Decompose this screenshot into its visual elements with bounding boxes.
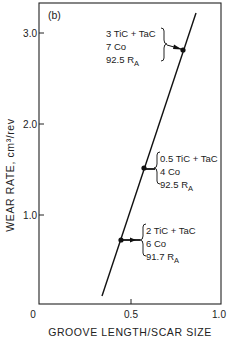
svg-text:92.5 RA: 92.5 RA: [106, 54, 139, 68]
data-point-bottom: [118, 237, 123, 242]
y-tick-label-3: 3.0: [23, 28, 37, 39]
svg-text:92.5 RA: 92.5 RA: [160, 179, 193, 193]
annotation-bottom: 2 TiC + TaC 6 Co 91.7 RA: [146, 225, 196, 265]
x-axis-title: GROOVE LENGTH/SCAR SIZE: [48, 326, 212, 338]
x-tick-label-1: 1.0: [212, 309, 226, 320]
svg-text:3 TiC + TaC: 3 TiC + TaC: [106, 28, 156, 39]
svg-text:4 Co: 4 Co: [160, 166, 180, 177]
y-tick-label-2: 2.0: [23, 119, 37, 130]
arrow-top: [167, 45, 182, 50]
y-axis-title: WEAR RATE, cm³/rev: [4, 118, 16, 231]
y-axis: 3.0 2.0 1.0: [23, 28, 44, 221]
data-point-middle: [141, 165, 146, 170]
chart: (b) 3.0 2.0 1.0 WEAR RATE, cm³/rev 0 0.5…: [0, 0, 230, 344]
svg-text:0.5 TiC + TaC: 0.5 TiC + TaC: [160, 153, 218, 164]
panel-label: (b): [48, 9, 61, 21]
svg-text:6 Co: 6 Co: [146, 238, 166, 249]
annotation-middle: 0.5 TiC + TaC 4 Co 92.5 RA: [160, 153, 218, 193]
svg-text:2 TiC + TaC: 2 TiC + TaC: [146, 225, 196, 236]
y-tick-label-1: 1.0: [23, 210, 37, 221]
brace-top: [161, 28, 167, 61]
x-axis: 0 0.5 1.0: [30, 299, 226, 320]
x-tick-label-0: 0: [30, 309, 36, 320]
arrow-bottom: [123, 238, 140, 243]
annotation-top: 3 TiC + TaC 7 Co 92.5 RA: [106, 28, 156, 68]
data-point-top: [180, 47, 185, 52]
svg-text:7 Co: 7 Co: [106, 41, 126, 52]
svg-text:91.7 RA: 91.7 RA: [146, 251, 179, 265]
x-tick-label-05: 0.5: [124, 309, 138, 320]
